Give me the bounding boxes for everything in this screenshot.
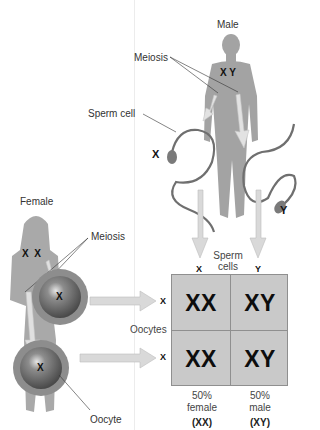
result-male-sex: male bbox=[238, 402, 282, 414]
female-chromosomes: X X bbox=[22, 248, 41, 259]
oocyte-2-chromosome: X bbox=[37, 362, 44, 373]
result-male: 50% male (XY) bbox=[238, 390, 282, 428]
sperm-cell-label: Sperm cell bbox=[88, 108, 135, 119]
sperm-y bbox=[243, 124, 295, 206]
male-label: Male bbox=[217, 19, 239, 30]
cell-xy-2: XY bbox=[231, 331, 289, 387]
sperm-y-label: Y bbox=[280, 204, 287, 216]
sperm-cells-header-line2: cells bbox=[213, 261, 243, 272]
male-chromosomes: X Y bbox=[220, 67, 236, 78]
result-female-percent: 50% bbox=[180, 390, 224, 402]
oocyte-1-chromosome: X bbox=[56, 291, 63, 302]
column-header-y: Y bbox=[255, 264, 261, 274]
sperm-x-head bbox=[167, 150, 177, 164]
result-female: 50% female (XX) bbox=[180, 390, 224, 428]
male-silhouette bbox=[204, 34, 258, 218]
sperm-cells-header-line1: Sperm bbox=[213, 250, 243, 261]
result-male-percent: 50% bbox=[238, 390, 282, 402]
female-meiosis-label: Meiosis bbox=[91, 231, 125, 242]
female-label: Female bbox=[20, 196, 53, 207]
cell-xx-1: XX bbox=[172, 275, 230, 331]
oocyte-label: Oocyte bbox=[90, 414, 122, 425]
cell-xx-2: XX bbox=[172, 331, 230, 387]
row-header-x1: X bbox=[160, 296, 166, 306]
result-female-sex: female bbox=[180, 402, 224, 414]
column-header-x: X bbox=[196, 264, 202, 274]
result-female-genotype: (XX) bbox=[180, 417, 224, 428]
sperm-cells-header: Sperm cells bbox=[213, 250, 243, 272]
cell-xy-1: XY bbox=[231, 275, 289, 331]
male-meiosis-label: Meiosis bbox=[134, 52, 168, 63]
punnett-square: XX XY XX XY bbox=[171, 274, 288, 386]
oocytes-label: Oocytes bbox=[130, 324, 167, 335]
sperm-x-label: X bbox=[152, 148, 159, 160]
row-header-x2: X bbox=[160, 352, 166, 362]
result-male-genotype: (XY) bbox=[238, 417, 282, 428]
sperm-x bbox=[172, 130, 214, 232]
